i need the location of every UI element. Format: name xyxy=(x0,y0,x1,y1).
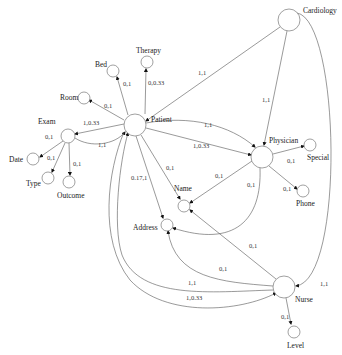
node-address xyxy=(161,219,173,231)
label-phone: Phone xyxy=(296,200,315,208)
diagram-graphics xyxy=(0,0,342,355)
label-date: Date xyxy=(9,156,23,164)
edge-label-exam-type: 0,1 xyxy=(47,155,55,162)
edge-physician-name xyxy=(190,161,252,203)
edge-label-patient-exam: 1,0.33 xyxy=(83,120,99,127)
edge-cardiology-patient xyxy=(146,27,280,121)
label-level: Level xyxy=(287,342,304,350)
label-room: Room xyxy=(60,94,78,102)
edge-label-patient-address: 0.17,1 xyxy=(131,175,147,182)
label-special: Special xyxy=(307,154,329,162)
edge-label-patient-bed: 0,1 xyxy=(123,81,131,88)
node-exam xyxy=(61,129,75,143)
node-name xyxy=(178,200,190,212)
edge-label-patient-name: 0,1 xyxy=(166,165,174,172)
edge-label-physician-special: 0,1 xyxy=(287,158,295,165)
edge-label-cardiology-physician: 1,1 xyxy=(262,97,270,104)
edge-label-patient-nurse: 1,0.33 xyxy=(186,295,202,302)
edge-label-patient-room: 0,1 xyxy=(104,103,112,110)
node-patient xyxy=(124,114,146,136)
edge-label-nurse-address: 0,1 xyxy=(219,266,227,273)
edge-physician-special xyxy=(273,146,304,154)
label-exam: Exam xyxy=(38,118,56,126)
edge-nurse-address xyxy=(168,231,273,286)
edge-label-exam-date: 0,1 xyxy=(45,134,53,141)
node-special xyxy=(304,139,316,151)
label-physician: Physician xyxy=(269,137,298,145)
label-patient: Patient xyxy=(151,116,172,124)
edge-label-cardiology-patient: 1,1 xyxy=(198,70,206,77)
edge-label-cardiology-nurse: 1,1 xyxy=(320,281,328,288)
label-address: Address xyxy=(133,224,158,232)
label-name: Name xyxy=(174,185,192,193)
edge-cardiology-physician xyxy=(264,31,287,145)
node-therapy xyxy=(141,56,153,68)
edge-nurse-name xyxy=(190,210,276,279)
edge-patient-therapy xyxy=(145,69,146,114)
node-physician xyxy=(251,146,273,168)
node-type xyxy=(42,172,54,184)
edge-label-physician-phone: 0,1 xyxy=(283,186,291,193)
edge-label-patient-therapy: 0,0.33 xyxy=(148,80,164,87)
label-therapy: Therapy xyxy=(136,47,161,55)
edge-label-patient-physician-1: 1,1 xyxy=(204,122,212,129)
edge-label-patient-physician-2: 1,0.33 xyxy=(193,143,209,150)
node-bed xyxy=(107,65,119,77)
edge-label-exam-patient: 1,1 xyxy=(98,142,106,149)
edge-label-exam-outcome: 0,1 xyxy=(73,161,81,168)
label-outcome: Outcome xyxy=(57,192,85,200)
label-nurse: Nurse xyxy=(295,296,313,304)
label-cardiology: Cardiology xyxy=(303,7,337,15)
edge-label-physician-name: 0,1 xyxy=(215,173,223,180)
edge-nurse-patient xyxy=(117,133,273,292)
node-level xyxy=(288,326,300,338)
label-type: Type xyxy=(26,180,41,188)
er-diagram: Cardiology Patient Physician Special Pho… xyxy=(0,0,342,355)
label-bed: Bed xyxy=(95,61,107,69)
edge-exam-outcome xyxy=(69,143,70,175)
node-room xyxy=(78,92,90,104)
edge-label-nurse-level: 0,1 xyxy=(281,314,289,321)
edge-label-nurse-patient: 1,1 xyxy=(188,280,196,287)
node-phone xyxy=(297,185,309,197)
node-date xyxy=(27,153,39,165)
edge-label-physician-address: 0,1 xyxy=(247,182,255,189)
node-outcome xyxy=(63,176,75,188)
node-nurse xyxy=(273,276,295,298)
edge-label-nurse-name: 0,1 xyxy=(249,243,257,250)
node-cardiology xyxy=(278,9,300,31)
